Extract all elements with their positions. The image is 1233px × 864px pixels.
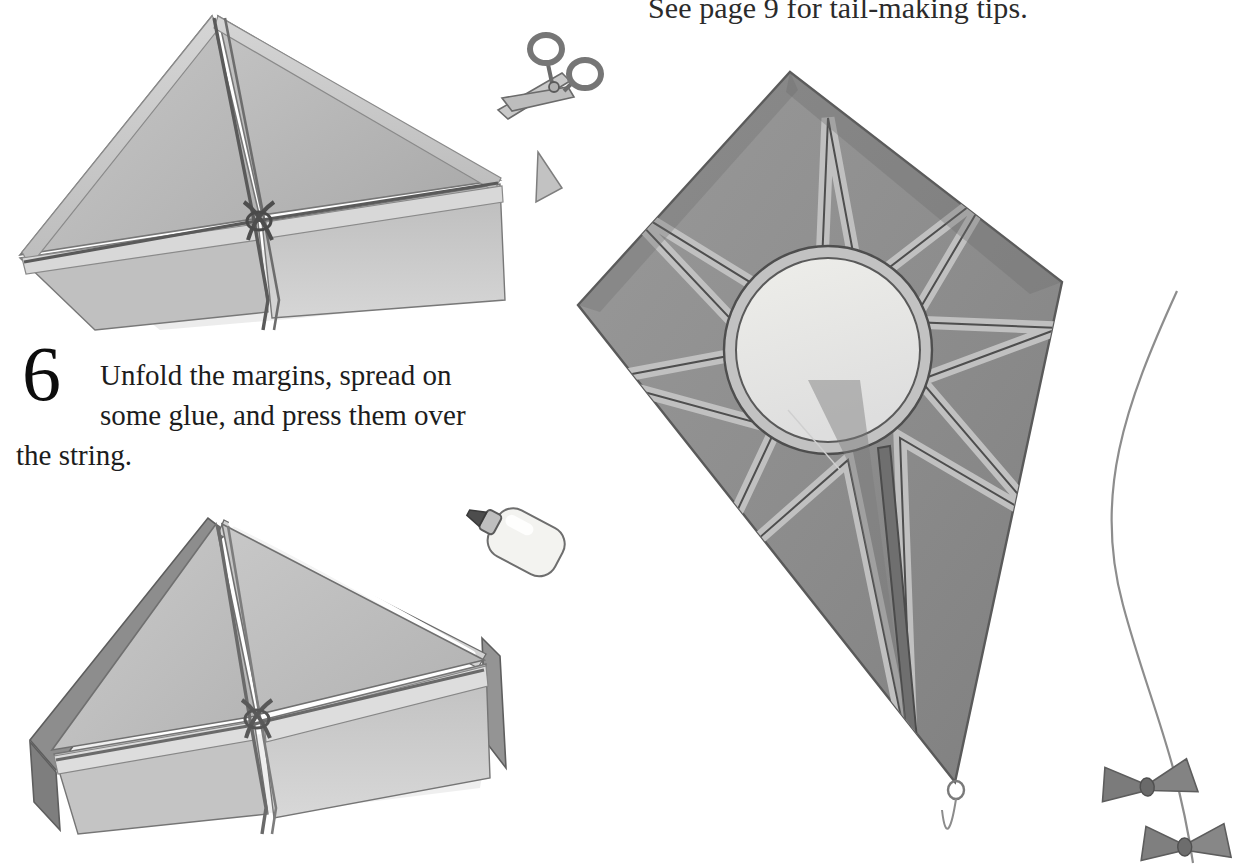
paper-scrap-triangle (536, 152, 562, 202)
kite-tail-loop (948, 781, 964, 799)
glued-kite-left-panel (52, 524, 256, 750)
kite-bottom-string (942, 799, 956, 829)
tail-bow-1-knot (1139, 777, 1155, 796)
tail-tips-note: See page 9 for tail-making tips. (648, 0, 1118, 25)
step-instruction-text: Unfold the margins, spread on some glue,… (88, 355, 556, 475)
step-text-line-2: some glue, and press them over (88, 395, 556, 435)
glue-bottle-icon (457, 489, 571, 583)
instruction-page: See page 9 for tail-making tips. (0, 0, 1233, 864)
kite-tail-illustration (1085, 285, 1233, 864)
step-text-line-3: the string. (16, 435, 556, 475)
step-text-line-1: Unfold the margins, spread on (88, 355, 556, 395)
tail-bow-3-knot (1177, 838, 1192, 856)
scissors-ring-top (530, 35, 562, 63)
glue-bottle-illustration (448, 495, 578, 610)
scissors-pivot (549, 82, 559, 92)
step-number: 6 (22, 335, 61, 413)
tail-bow-3 (1140, 823, 1231, 860)
finished-kite-illustration (560, 50, 1080, 810)
folded-kite-illustration (0, 0, 545, 345)
tail-bow-1 (1099, 758, 1198, 802)
